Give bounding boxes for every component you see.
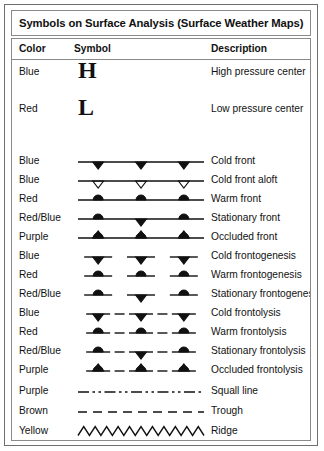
occluded-frontolysis-symbol [72, 360, 210, 379]
row-color-label: Red [19, 265, 38, 284]
card-title-box: Symbols on Surface Analysis (Surface Wea… [11, 10, 311, 36]
symbol-reference-card: Symbols on Surface Analysis (Surface Wea… [4, 4, 318, 446]
cold-front-symbol [72, 151, 210, 170]
stationary-frontolysis-symbol [72, 341, 210, 360]
occluded-front-symbol [72, 227, 210, 246]
trough-symbol [72, 401, 210, 420]
table-row: RedWarm frontogenesis [12, 265, 310, 284]
cold-frontolysis-symbol [72, 303, 210, 322]
row-color-label: Red [19, 189, 38, 208]
table-row: RedWarm frontolysis [12, 322, 310, 341]
table-row: BlueCold frontogenesis [12, 246, 310, 265]
cold-frontogenesis-symbol [72, 246, 210, 265]
row-color-label: Red [19, 322, 38, 341]
table-row: BrownTrough [12, 401, 310, 420]
row-description: High pressure center [211, 62, 306, 81]
row-description: Warm front [211, 189, 261, 208]
row-color-label: Blue [19, 303, 39, 322]
table-row: YellowRidge [12, 421, 310, 440]
row-description: Occluded frontolysis [211, 360, 303, 379]
table-row: RedLow pressure centerL [12, 99, 310, 118]
row-color-label: Red [19, 99, 38, 118]
row-color-label: Purple [19, 360, 48, 379]
row-color-label: Blue [19, 62, 39, 81]
table-row: BlueCold front [12, 151, 310, 170]
squall-line-symbol [72, 381, 210, 400]
table-row: Red/BlueStationary frontolysis [12, 341, 310, 360]
row-color-label: Red/Blue [19, 341, 61, 360]
row-color-label: Blue [19, 151, 39, 170]
warm-frontogenesis-symbol [72, 265, 210, 284]
row-description: Stationary frontogenesis [211, 284, 311, 303]
row-color-label: Blue [19, 170, 39, 189]
column-header-symbol: Symbol [74, 39, 111, 58]
cold-front-aloft-symbol [72, 170, 210, 189]
low-pressure-symbol: L [78, 95, 94, 119]
table-row: BlueHigh pressure centerH [12, 62, 310, 81]
row-description: Ridge [211, 421, 238, 440]
table-row: Red/BlueStationary front [12, 208, 310, 227]
table-row: PurpleOccluded frontolysis [12, 360, 310, 379]
column-header-color: Color [19, 39, 46, 58]
row-color-label: Purple [19, 227, 48, 246]
row-description: Trough [211, 401, 243, 420]
row-color-label: Yellow [19, 421, 48, 440]
row-description: Occluded front [211, 227, 277, 246]
table-row: BlueCold frontolysis [12, 303, 310, 322]
table-header-row: ColorSymbolDescription [12, 39, 310, 58]
row-color-label: Brown [19, 401, 48, 420]
warm-frontolysis-symbol [72, 322, 210, 341]
ridge-symbol [72, 421, 210, 440]
header-divider [12, 59, 310, 60]
row-description: Cold frontogenesis [211, 246, 296, 265]
row-description: Cold front aloft [211, 170, 277, 189]
row-description: Cold frontolysis [211, 303, 281, 322]
row-description: Warm frontogenesis [211, 265, 302, 284]
column-header-description: Description [211, 39, 267, 58]
table-row: RedWarm front [12, 189, 310, 208]
row-description: Warm frontolysis [211, 322, 286, 341]
row-description: Squall line [211, 381, 258, 400]
row-description: Cold front [211, 151, 255, 170]
warm-front-symbol [72, 189, 210, 208]
table-row: PurpleSquall line [12, 381, 310, 400]
row-description: Stationary front [211, 208, 280, 227]
table-row: PurpleOccluded front [12, 227, 310, 246]
row-color-label: Purple [19, 381, 48, 400]
row-color-label: Blue [19, 246, 39, 265]
row-description: Stationary frontolysis [211, 341, 306, 360]
high-pressure-symbol: H [78, 58, 97, 82]
stationary-frontogenesis-symbol [72, 284, 210, 303]
stationary-front-symbol [72, 208, 210, 227]
table-row: Red/BlueStationary frontogenesis [12, 284, 310, 303]
page-title: Symbols on Surface Analysis (Surface Wea… [12, 17, 303, 29]
table-row: BlueCold front aloft [12, 170, 310, 189]
row-color-label: Red/Blue [19, 208, 61, 227]
row-description: Low pressure center [211, 99, 303, 118]
row-color-label: Red/Blue [19, 284, 61, 303]
symbols-table: ColorSymbolDescriptionBlueHigh pressure … [11, 38, 311, 441]
